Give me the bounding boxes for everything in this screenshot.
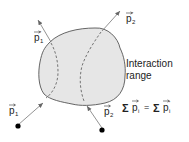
label-p2: p 2 <box>104 105 114 118</box>
svg-text:i: i <box>138 108 139 114</box>
svg-text:i: i <box>169 108 170 114</box>
label-p1: p 1 <box>9 104 19 117</box>
svg-text:': ' <box>169 100 170 106</box>
momentum-conservation-equation: Σ p i = Σ p i ' <box>122 100 170 114</box>
svg-text:1: 1 <box>40 38 44 44</box>
outgoing-arrow-p2-prime <box>102 11 120 31</box>
particle-2-dot <box>99 127 104 132</box>
svg-text:2: 2 <box>132 19 136 25</box>
svg-text:=: = <box>144 102 149 112</box>
interaction-range-label-line1: Interaction <box>126 58 173 69</box>
svg-text:': ' <box>132 11 133 17</box>
interaction-region <box>39 28 125 105</box>
label-p1-prime: p 1 ' <box>34 30 44 44</box>
svg-text:1: 1 <box>15 111 19 117</box>
svg-text:2: 2 <box>110 112 114 118</box>
scattering-diagram: p 1 p 2 p 1 ' p 2 ' Interaction range Σ … <box>0 0 189 142</box>
label-p2-prime: p 2 ' <box>126 11 136 25</box>
incoming-arrow-p1 <box>18 103 43 125</box>
interaction-range-label-line2: range <box>126 70 152 81</box>
svg-text:Σ: Σ <box>122 102 129 114</box>
svg-text:': ' <box>40 30 41 36</box>
svg-text:Σ: Σ <box>153 102 160 114</box>
incoming-arrow-p2 <box>87 106 102 128</box>
particle-1-dot <box>15 123 20 128</box>
